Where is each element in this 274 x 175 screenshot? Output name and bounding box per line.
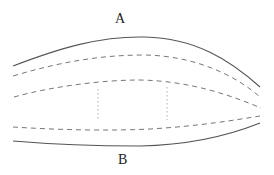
inner-middle-dashed-curve: [14, 80, 261, 108]
inner-bottom-dashed-curve: [13, 116, 260, 130]
label-a: A: [115, 12, 125, 26]
label-b: B: [118, 153, 127, 167]
inner-top-dashed-curve: [13, 55, 260, 97]
outer-bottom-curve: [13, 123, 260, 146]
outer-top-curve: [13, 37, 260, 87]
band-diagram: [0, 0, 274, 175]
